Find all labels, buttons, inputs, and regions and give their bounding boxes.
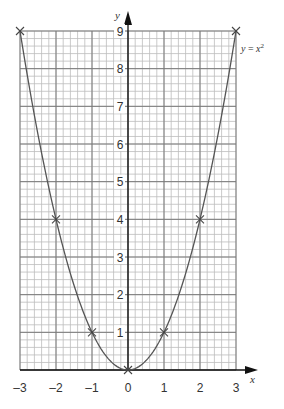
- x-tick-label: 0: [125, 381, 132, 395]
- y-axis-label: y: [114, 9, 120, 21]
- y-tick-label: 8: [117, 62, 124, 76]
- equation-label: y = x2: [240, 42, 265, 54]
- y-tick-label: 7: [117, 100, 124, 114]
- y-tick-label: 6: [117, 138, 124, 152]
- x-tick-label: 1: [161, 381, 168, 395]
- x-tick-label: –1: [85, 381, 99, 395]
- x-axis-label: x: [249, 373, 255, 385]
- y-axis-arrow-icon: [124, 11, 132, 25]
- y-tick-label: 4: [117, 213, 124, 227]
- y-tick-label: 2: [117, 288, 124, 302]
- y-tick-label: 9: [117, 25, 124, 39]
- y-tick-labels: 123456789: [114, 24, 125, 340]
- y-tick-label: 5: [117, 175, 124, 189]
- equation-exponent: 2: [261, 42, 265, 50]
- parabola-chart: 123456789 –3–2–10123 x y y = x2: [0, 0, 284, 409]
- x-tick-label: 3: [233, 381, 240, 395]
- equation-equals: =: [245, 43, 256, 54]
- x-tick-label: 2: [197, 381, 204, 395]
- y-tick-label: 1: [117, 326, 124, 340]
- y-tick-label: 3: [117, 251, 124, 265]
- x-tick-label: –2: [49, 381, 63, 395]
- x-tick-label: –3: [13, 381, 27, 395]
- x-tick-labels: –3–2–10123: [13, 381, 239, 395]
